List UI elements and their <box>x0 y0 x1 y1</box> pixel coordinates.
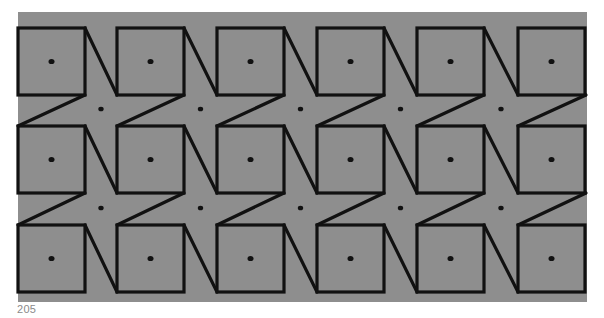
star-center-dot <box>98 107 103 112</box>
square-center-dot <box>248 157 254 162</box>
square-center-dot <box>148 59 154 64</box>
star-center-dot <box>198 206 203 211</box>
square-center-dot <box>448 157 454 162</box>
star-center-dot <box>398 206 403 211</box>
square-center-dot <box>348 256 354 261</box>
star-center-dot <box>198 107 203 112</box>
square-center-dot <box>348 59 354 64</box>
square-center-dot <box>148 256 154 261</box>
square-center-dot <box>448 59 454 64</box>
square-center-dot <box>49 59 55 64</box>
star-center-dot <box>98 206 103 211</box>
square-center-dot <box>549 256 555 261</box>
square-center-dot <box>549 157 555 162</box>
square-center-dot <box>549 59 555 64</box>
square-center-dot <box>148 157 154 162</box>
square-center-dot <box>448 256 454 261</box>
square-center-dot <box>49 256 55 261</box>
star-center-dot <box>298 107 303 112</box>
page-number: 205 <box>17 303 36 315</box>
square-center-dot <box>49 157 55 162</box>
star-center-dot <box>298 206 303 211</box>
star-center-dot <box>398 107 403 112</box>
square-center-dot <box>248 256 254 261</box>
square-center-dot <box>248 59 254 64</box>
star-center-dot <box>498 107 503 112</box>
tessellation-figure <box>0 0 604 318</box>
star-center-dot <box>498 206 503 211</box>
square-center-dot <box>348 157 354 162</box>
